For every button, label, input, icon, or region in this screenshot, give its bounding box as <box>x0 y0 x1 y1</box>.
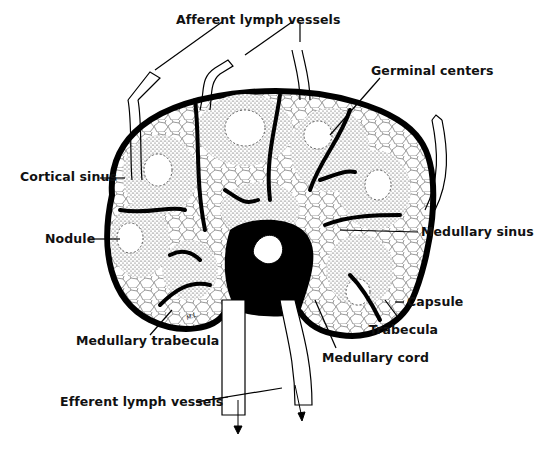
efferent-vessels <box>222 300 312 415</box>
label-cortical-sinus: Cortical sinus <box>20 169 117 184</box>
label-capsule: Capsule <box>407 294 463 309</box>
label-afferent-lymph-vessels: Afferent lymph vessels <box>176 12 340 27</box>
label-medullary-trabecula: Medullary trabecula <box>76 333 219 348</box>
label-efferent-lymph-vessels: Efferent lymph vessels <box>60 394 223 409</box>
node-body <box>107 91 433 336</box>
label-germinal-centers: Germinal centers <box>371 63 494 78</box>
label-medullary-cord: Medullary cord <box>322 350 429 365</box>
label-nodule: Nodule <box>45 231 95 246</box>
label-medullary-sinus: Medullary sinus <box>421 224 534 239</box>
label-trabecula: Trabecula <box>369 322 438 337</box>
